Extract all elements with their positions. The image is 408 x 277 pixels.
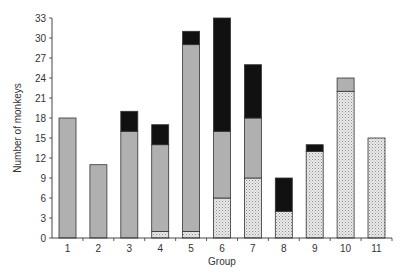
x-tick-label: 6 <box>219 243 225 254</box>
bar-segment-gray <box>214 131 231 198</box>
bar-segment-black <box>152 125 169 145</box>
bar-segment-dotted <box>244 178 261 238</box>
x-tick-label: 8 <box>281 243 287 254</box>
y-tick-label: 12 <box>35 153 47 164</box>
bar-segment-gray <box>337 78 354 91</box>
bar-segment-black <box>244 65 261 118</box>
stacked-bar-chart: 123456789101103691215182124273033 Number… <box>0 0 408 277</box>
y-tick-label: 9 <box>40 173 46 184</box>
y-tick-label: 18 <box>35 113 47 124</box>
bar-segment-black <box>121 111 138 131</box>
bar-segment-gray <box>59 118 76 238</box>
bar-segment-black <box>183 31 200 44</box>
x-tick-label: 1 <box>65 243 71 254</box>
bar-segment-gray <box>183 45 200 232</box>
bar-segment-dotted <box>152 231 169 238</box>
bars-group <box>59 18 385 238</box>
bar-segment-dotted <box>275 211 292 238</box>
bar-segment-gray <box>152 145 169 232</box>
x-tick-label: 5 <box>188 243 194 254</box>
bar-segment-dotted <box>368 138 385 238</box>
x-axis-title: Group <box>208 256 236 267</box>
x-tick-label: 9 <box>312 243 318 254</box>
bar-segment-dotted <box>214 198 231 238</box>
y-tick-label: 27 <box>35 53 47 64</box>
y-tick-label: 6 <box>40 193 46 204</box>
y-tick-label: 3 <box>40 213 46 224</box>
x-tick-label: 2 <box>96 243 102 254</box>
x-tick-label: 11 <box>371 243 382 254</box>
bar-segment-dotted <box>337 91 354 238</box>
y-tick-label: 0 <box>40 233 46 244</box>
bar-segment-gray <box>121 131 138 238</box>
y-tick-label: 24 <box>35 73 47 84</box>
y-tick-label: 30 <box>35 33 47 44</box>
bar-segment-black <box>275 178 292 211</box>
x-tick-label: 7 <box>250 243 256 254</box>
bar-segment-dotted <box>306 151 323 238</box>
bar-segment-black <box>214 18 231 131</box>
bar-segment-gray <box>90 165 107 238</box>
x-tick-label: 3 <box>127 243 133 254</box>
bar-segment-black <box>306 145 323 152</box>
x-tick-label: 10 <box>340 243 352 254</box>
x-tick-label: 4 <box>157 243 163 254</box>
y-tick-label: 15 <box>35 133 47 144</box>
y-tick-label: 33 <box>35 13 47 24</box>
bar-segment-gray <box>244 118 261 178</box>
y-tick-label: 21 <box>35 93 47 104</box>
y-axis-title: Number of monkeys <box>12 83 23 172</box>
bar-segment-dotted <box>183 231 200 238</box>
